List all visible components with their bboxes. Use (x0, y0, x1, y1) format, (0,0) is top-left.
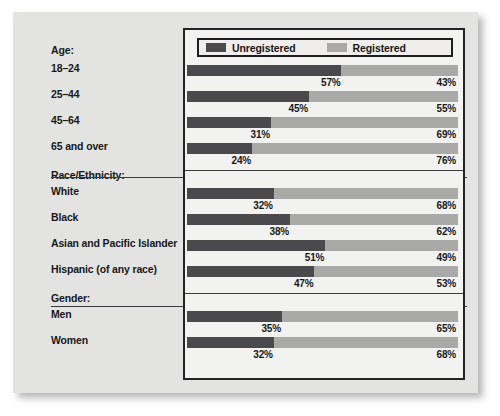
value-label-registered: 49% (437, 252, 456, 263)
bar-value-row: 24%76% (187, 155, 458, 168)
group-heading-gender: Gender: (51, 292, 90, 304)
bar-value-row: 51%49% (187, 252, 458, 265)
bar-value-row: 35%65% (187, 323, 458, 336)
stacked-bar (187, 65, 458, 76)
group-heading-age: Age: (51, 44, 74, 56)
row-label: 65 and over (51, 140, 108, 152)
bar-segment-registered (252, 143, 458, 154)
bar-segment-unregistered (187, 266, 314, 277)
category-label-column: Age:18–2425–4445–6465 and overRace/Ethni… (13, 12, 185, 393)
legend-swatch-registered-icon (327, 43, 347, 52)
value-label-registered: 69% (437, 129, 456, 140)
bar-segment-registered (274, 188, 458, 199)
bar-segment-registered (325, 240, 458, 251)
row-label: 25–44 (51, 88, 79, 100)
bar-segment-registered (314, 266, 458, 277)
stacked-bar (187, 188, 458, 199)
value-label-registered: 55% (437, 103, 456, 114)
stacked-bar (187, 117, 458, 128)
plot-section-divider (185, 293, 463, 294)
stacked-bar (187, 214, 458, 225)
value-label-unregistered: 57% (321, 77, 340, 88)
value-label-registered: 68% (437, 200, 456, 211)
bar-segment-registered (309, 91, 458, 102)
legend-label-unregistered: Unregistered (232, 42, 296, 54)
row-label: Men (51, 308, 72, 320)
plot-frame: Unregistered Registered 57%43%45%55%31%6… (183, 28, 465, 380)
value-label-unregistered: 38% (270, 226, 289, 237)
bar-segment-registered (274, 337, 458, 348)
legend-swatch-unregistered-icon (206, 43, 226, 52)
value-label-registered: 53% (437, 278, 456, 289)
stacked-bar (187, 143, 458, 154)
stacked-bar (187, 91, 458, 102)
bar-value-row: 57%43% (187, 77, 458, 90)
bar-segment-unregistered (187, 337, 274, 348)
bar-value-row: 38%62% (187, 226, 458, 239)
row-label: White (51, 185, 79, 197)
value-label-unregistered: 32% (253, 349, 272, 360)
plot-section-divider (185, 170, 463, 171)
bar-value-row: 31%69% (187, 129, 458, 142)
bar-value-row: 45%55% (187, 103, 458, 116)
bar-segment-unregistered (187, 91, 309, 102)
row-label: Black (51, 211, 78, 223)
row-label: Hispanic (of any race) (51, 263, 157, 275)
figure-panel: Age:18–2425–4445–6465 and overRace/Ethni… (13, 12, 478, 393)
value-label-registered: 68% (437, 349, 456, 360)
stacked-bar (187, 311, 458, 322)
value-label-unregistered: 32% (253, 200, 272, 211)
bar-segment-registered (290, 214, 458, 225)
bar-segment-unregistered (187, 143, 252, 154)
bar-segment-unregistered (187, 117, 271, 128)
group-heading-raceethnicity: Race/Ethnicity: (51, 169, 125, 181)
bar-segment-registered (341, 65, 458, 76)
bar-segment-unregistered (187, 188, 274, 199)
bar-segment-registered (282, 311, 458, 322)
value-label-unregistered: 51% (305, 252, 324, 263)
legend-entry-registered: Registered (327, 42, 406, 54)
value-label-registered: 65% (437, 323, 456, 334)
row-label: Women (51, 334, 88, 346)
stacked-bar (187, 240, 458, 251)
value-label-unregistered: 24% (232, 155, 251, 166)
bar-value-row: 32%68% (187, 200, 458, 213)
value-label-unregistered: 35% (261, 323, 280, 334)
stacked-bar (187, 266, 458, 277)
stacked-bar (187, 337, 458, 348)
bar-segment-unregistered (187, 311, 282, 322)
legend-entry-unregistered: Unregistered (206, 42, 296, 54)
row-label: 45–64 (51, 114, 79, 126)
value-label-unregistered: 45% (289, 103, 308, 114)
row-label: Asian and Pacific Islander (51, 237, 177, 249)
row-label: 18–24 (51, 62, 79, 74)
bar-value-row: 47%53% (187, 278, 458, 291)
bar-segment-unregistered (187, 214, 290, 225)
bar-segment-unregistered (187, 240, 325, 251)
value-label-unregistered: 47% (294, 278, 313, 289)
legend-label-registered: Registered (353, 42, 406, 54)
value-label-registered: 43% (437, 77, 456, 88)
value-label-unregistered: 31% (251, 129, 270, 140)
chart-legend: Unregistered Registered (197, 38, 453, 57)
value-label-registered: 76% (437, 155, 456, 166)
value-label-registered: 62% (437, 226, 456, 237)
bar-segment-unregistered (187, 65, 341, 76)
bar-value-row: 32%68% (187, 349, 458, 362)
bar-segment-registered (271, 117, 458, 128)
